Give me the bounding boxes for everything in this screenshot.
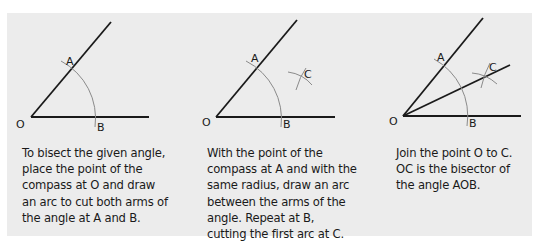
label-a: A xyxy=(251,52,259,65)
label-b: B xyxy=(283,118,291,131)
step-3-text: Join the point O to C. OC is the bisecto… xyxy=(396,145,526,194)
label-b: B xyxy=(97,121,105,134)
label-o: O xyxy=(389,115,398,128)
label-c: C xyxy=(304,68,312,81)
label-a: A xyxy=(437,51,445,64)
arm-oa xyxy=(31,22,111,117)
step-2-text: With the point of the compass at A and w… xyxy=(207,145,357,242)
label-o: O xyxy=(16,118,25,131)
step-1-figure: O A B xyxy=(16,22,149,134)
step-2-figure: A C O B xyxy=(202,20,335,131)
label-c: C xyxy=(489,61,497,74)
label-b: B xyxy=(469,117,477,130)
step-1-text: To bisect the given angle, place the poi… xyxy=(22,145,172,226)
step-3-figure: A C O B xyxy=(389,18,521,130)
arm-oa xyxy=(403,18,483,116)
arm-oa xyxy=(216,20,297,117)
label-o: O xyxy=(202,116,211,129)
label-a: A xyxy=(66,55,74,68)
